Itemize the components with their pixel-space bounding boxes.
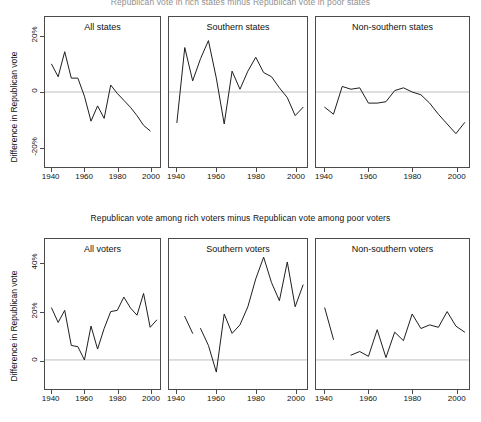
y-tick-label-voters-row-1: 20% — [30, 296, 39, 324]
x-tick-label-non-southern-voters-3: 2000 — [448, 394, 466, 403]
x-tick-label-southern-states-0: 1940 — [167, 172, 185, 181]
x-tick-label-non-southern-states-3: 2000 — [448, 172, 466, 181]
x-tick-label-southern-voters-3: 2000 — [287, 394, 305, 403]
data-line-non-southern-states — [325, 86, 465, 133]
x-tick-label-non-southern-voters-1: 1960 — [359, 394, 377, 403]
figure-republican-vote-differences: Republican vote in rich states minus Rep… — [0, 0, 481, 422]
data-line-southern-voters-seg1 — [201, 257, 304, 372]
x-tick-label-all-voters-3: 2000 — [142, 394, 160, 403]
x-tick-label-non-southern-states-1: 1960 — [359, 172, 377, 181]
y-tick-label-states-row-0: 20% — [30, 20, 39, 48]
data-line-non-southern-voters-seg0 — [325, 308, 334, 339]
x-tick-label-all-voters-0: 1940 — [42, 394, 60, 403]
y-tick-label-states-row-1: 0 — [30, 77, 39, 105]
x-tick-label-all-states-3: 2000 — [142, 172, 160, 181]
plot-area-non-southern-voters — [316, 239, 469, 389]
x-tick-label-all-states-1: 1960 — [75, 172, 93, 181]
data-line-all-states — [52, 52, 151, 131]
x-tick-label-non-southern-states-2: 1980 — [404, 172, 422, 181]
chart-panel-non-southern-states: Non-southern states — [315, 16, 470, 168]
x-tick-label-non-southern-states-0: 1940 — [315, 172, 333, 181]
data-line-all-voters — [52, 293, 157, 360]
x-tick-label-southern-states-1: 1960 — [207, 172, 225, 181]
x-tick-label-southern-voters-1: 1960 — [207, 394, 225, 403]
chart-panel-southern-states: Southern states — [168, 16, 308, 168]
data-line-southern-states — [177, 41, 303, 124]
plot-area-southern-voters — [169, 239, 307, 389]
plot-area-southern-states — [169, 17, 307, 167]
y-tick-label-states-row-2: -20% — [30, 133, 39, 161]
y-tick-label-voters-row-0: 40% — [30, 247, 39, 275]
data-line-non-southern-voters-seg1 — [351, 312, 465, 358]
chart-panel-all-voters: All voters — [44, 238, 161, 390]
chart-panel-southern-voters: Southern voters — [168, 238, 308, 390]
x-tick-label-southern-voters-0: 1940 — [167, 394, 185, 403]
x-tick-label-non-southern-voters-2: 1980 — [404, 394, 422, 403]
x-tick-label-all-voters-1: 1960 — [75, 394, 93, 403]
y-tick-label-voters-row-2: 0 — [30, 345, 39, 373]
x-tick-label-southern-states-3: 2000 — [287, 172, 305, 181]
panels-layer: 20%0-20%All states1940196019802000Southe… — [0, 0, 481, 422]
x-tick-label-non-southern-voters-0: 1940 — [315, 394, 333, 403]
plot-area-all-voters — [45, 239, 160, 389]
plot-area-non-southern-states — [316, 17, 469, 167]
x-tick-label-all-states-0: 1940 — [42, 172, 60, 181]
x-tick-label-all-voters-2: 1980 — [109, 394, 127, 403]
chart-panel-all-states: All states — [44, 16, 161, 168]
chart-panel-non-southern-voters: Non-southern voters — [315, 238, 470, 390]
x-tick-label-southern-voters-2: 1980 — [247, 394, 265, 403]
plot-area-all-states — [45, 17, 160, 167]
data-line-southern-voters-seg0 — [185, 316, 193, 333]
x-tick-label-southern-states-2: 1980 — [247, 172, 265, 181]
x-tick-label-all-states-2: 1980 — [109, 172, 127, 181]
